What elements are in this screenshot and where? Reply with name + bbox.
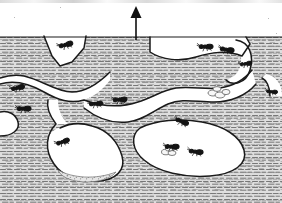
nest-cross-section-illustration (0, 0, 282, 203)
ant-nest-figure (0, 0, 282, 203)
scan-speck (14, 17, 15, 18)
scan-speck (60, 7, 61, 8)
scan-speck (268, 18, 269, 19)
scan-speck (276, 33, 277, 34)
soil-mass (0, 37, 282, 203)
